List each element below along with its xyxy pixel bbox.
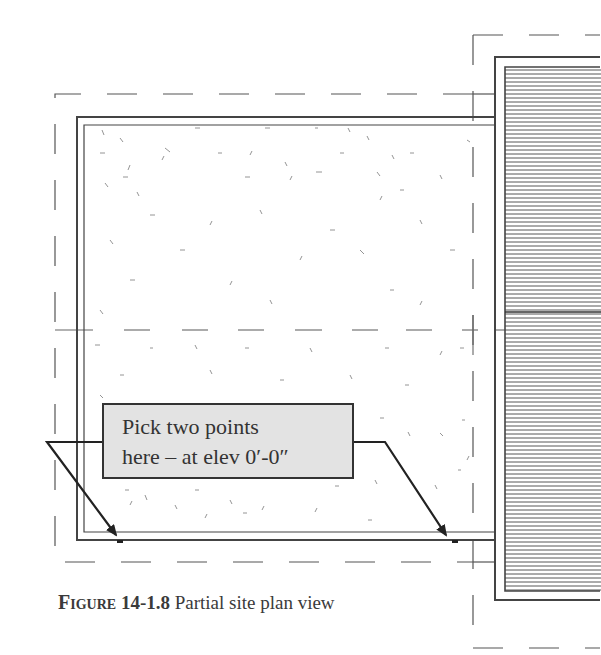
- leader-arrow-right: [354, 442, 446, 535]
- building-hatch: [505, 67, 601, 591]
- callout-line-2: here – at elev 0′-0″: [122, 442, 352, 472]
- callout-line-1: Pick two points: [122, 412, 352, 442]
- site-plan-drawing: [0, 0, 601, 655]
- caption-text: Partial site plan view: [175, 592, 335, 613]
- caption-number: 14-1.8: [121, 592, 170, 613]
- adjacent-building: [495, 57, 601, 600]
- pick-point-left: [117, 540, 123, 543]
- centerline-dashed: [55, 315, 505, 355]
- caption-label: Figure: [58, 591, 116, 613]
- figure-caption: Figure 14-1.8 Partial site plan view: [58, 591, 335, 614]
- callout-box: Pick two points here – at elev 0′-0″: [102, 403, 354, 479]
- pick-point-right: [452, 540, 458, 543]
